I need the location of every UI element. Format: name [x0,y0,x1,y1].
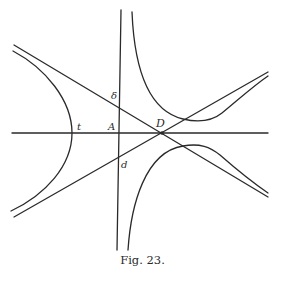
hyperbola-diagram: δ t A D d [0,0,285,288]
vertical-line [117,10,121,250]
lower-right-curve-branch [128,145,268,250]
label-d: d [121,159,127,170]
label-t: t [77,121,82,132]
point-D [160,131,164,135]
asymptote-descending [14,45,268,197]
label-D: D [155,117,165,130]
asymptote-ascending [14,72,268,217]
label-A: A [107,121,115,132]
left-curve-branch [11,51,72,211]
label-delta: δ [111,90,117,101]
figure-caption: Fig. 23. [0,253,285,267]
upper-right-curve-branch [132,12,268,121]
